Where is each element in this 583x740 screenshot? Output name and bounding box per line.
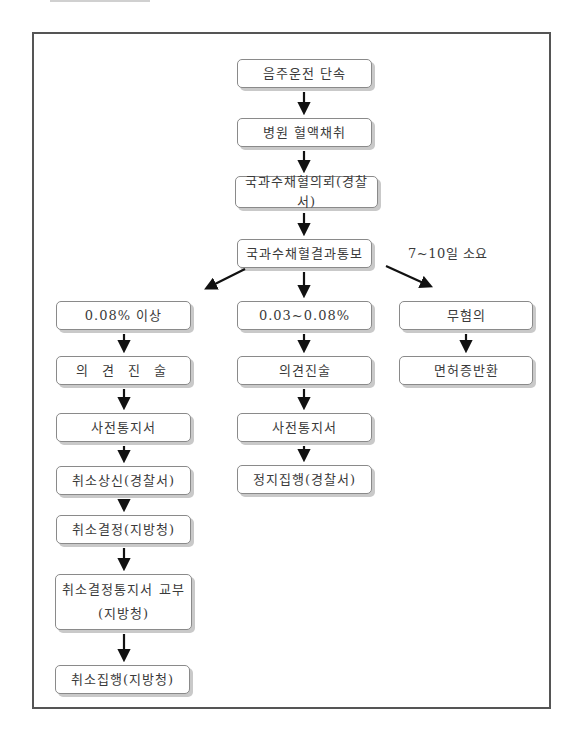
duration-note: 7~10일 소요 [408, 243, 488, 262]
cropped-heading-fragment [50, 0, 150, 2]
node-left-cancel-notice: 취소결정통지서 교부 (지방청) [55, 574, 192, 630]
node-left-cancel-exec: 취소집행(지방청) [55, 665, 190, 694]
node-left-condition: 0.08% 이상 [56, 301, 191, 330]
node-right-license-return: 면허증반환 [399, 356, 533, 385]
node-nfs-result: 국과수채혈결과통보 [237, 239, 372, 268]
node-middle-condition: 0.03~0.08% [237, 301, 372, 330]
node-right-condition: 무혐의 [399, 301, 533, 330]
node-nfs-request: 국과수채혈의뢰(경찰서) [235, 176, 378, 208]
node-blood-sample: 병원 혈액채취 [237, 118, 372, 147]
node-left-cancel-decision: 취소결정(지방청) [56, 515, 191, 544]
node-middle-opinion: 의견진술 [237, 356, 372, 385]
node-middle-notice: 사전통지서 [237, 413, 372, 442]
node-middle-suspend-exec: 정지집행(경찰서) [237, 465, 372, 494]
node-left-opinion: 의 견 진 술 [56, 356, 191, 385]
node-left-cancel-report: 취소상신(경찰서) [56, 466, 191, 495]
node-left-notice: 사전통지서 [56, 413, 191, 442]
node-start: 음주운전 단속 [237, 59, 372, 88]
